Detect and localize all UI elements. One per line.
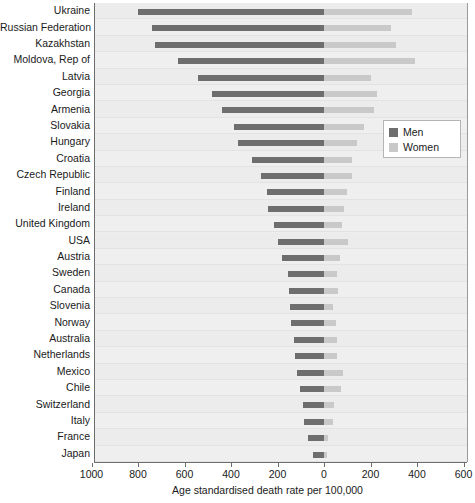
bar-women — [324, 337, 337, 343]
bar-women — [324, 452, 327, 458]
row-background — [95, 364, 467, 380]
x-axis-tick — [92, 463, 93, 467]
bar-women — [324, 189, 347, 195]
bar-women — [324, 370, 343, 376]
bar-men — [212, 91, 324, 97]
plot-area — [95, 3, 468, 462]
x-axis-tick-label: 400 — [211, 468, 251, 480]
category-label: Austria — [0, 251, 90, 262]
bar-men — [288, 271, 324, 277]
bar-row — [95, 265, 467, 281]
bar-men — [303, 402, 324, 408]
bar-men — [290, 304, 324, 310]
bar-women — [324, 402, 334, 408]
legend-swatch-women-icon — [389, 143, 398, 152]
bar-women — [324, 255, 340, 261]
row-background — [95, 380, 467, 396]
bar-women — [324, 271, 337, 277]
bar-women — [324, 419, 333, 425]
y-axis-line — [94, 3, 95, 462]
bar-women — [324, 288, 338, 294]
bar-men — [152, 25, 324, 31]
legend-item-women: Women — [389, 140, 455, 155]
bar-men — [294, 337, 324, 343]
bar-row — [95, 347, 467, 363]
row-background — [95, 331, 467, 347]
category-label: USA — [0, 235, 90, 246]
bar-men — [238, 140, 324, 146]
category-label: Armenia — [0, 104, 90, 115]
row-background — [95, 282, 467, 298]
x-axis-tick-label: 1000 — [72, 468, 112, 480]
bar-men — [278, 239, 325, 245]
bar-men — [282, 255, 324, 261]
category-label: Slovakia — [0, 120, 90, 131]
bar-men — [234, 124, 324, 130]
x-axis-tick — [138, 463, 139, 467]
bar-row — [95, 52, 467, 68]
bar-women — [324, 222, 342, 228]
row-background — [95, 249, 467, 265]
row-background — [95, 314, 467, 330]
category-label: Croatia — [0, 153, 90, 164]
bar-women — [324, 353, 337, 359]
x-axis-tick — [324, 463, 325, 467]
bar-men — [261, 173, 324, 179]
bar-row — [95, 167, 467, 183]
x-axis-tick-label: 600 — [444, 468, 475, 480]
legend-item-men: Men — [389, 125, 455, 140]
category-label: Australia — [0, 333, 90, 344]
bar-men — [268, 206, 324, 212]
legend-label-women: Women — [403, 142, 439, 153]
category-label: United Kingdom — [0, 218, 90, 229]
bar-row — [95, 282, 467, 298]
bar-row — [95, 446, 467, 462]
bar-men — [308, 435, 324, 441]
bar-men — [300, 386, 324, 392]
bar-men — [295, 353, 324, 359]
bar-row — [95, 413, 467, 429]
category-label: Kazakhstan — [0, 38, 90, 49]
bar-row — [95, 380, 467, 396]
bar-women — [324, 9, 412, 15]
bar-row — [95, 216, 467, 232]
x-axis-tick-label: 800 — [118, 468, 158, 480]
x-axis-tick-label: 200 — [351, 468, 391, 480]
row-background — [95, 413, 467, 429]
bar-row — [95, 298, 467, 314]
category-label: France — [0, 431, 90, 442]
category-label: Finland — [0, 186, 90, 197]
bar-women — [324, 107, 374, 113]
row-background — [95, 298, 467, 314]
x-axis-tick — [464, 463, 465, 467]
category-label: Japan — [0, 448, 90, 459]
bar-row — [95, 249, 467, 265]
category-label: Netherlands — [0, 349, 90, 360]
bar-row — [95, 85, 467, 101]
x-axis-tick-label: 400 — [397, 468, 437, 480]
bar-men — [267, 189, 324, 195]
category-label: Norway — [0, 317, 90, 328]
bar-row — [95, 233, 467, 249]
category-label: Georgia — [0, 87, 90, 98]
category-label: Mexico — [0, 366, 90, 377]
x-axis-tick — [371, 463, 372, 467]
legend-label-men: Men — [403, 127, 423, 138]
bar-men — [291, 320, 324, 326]
bar-row — [95, 3, 467, 19]
bar-row — [95, 69, 467, 85]
bar-row — [95, 331, 467, 347]
bar-women — [324, 157, 352, 163]
category-label: Hungary — [0, 136, 90, 147]
category-label: Moldova, Rep of — [0, 54, 90, 65]
bar-women — [324, 239, 348, 245]
bar-women — [324, 173, 352, 179]
bar-row — [95, 183, 467, 199]
row-background — [95, 265, 467, 281]
bar-men — [297, 370, 324, 376]
category-label: Ukraine — [0, 5, 90, 16]
x-axis-tick — [417, 463, 418, 467]
bar-row — [95, 429, 467, 445]
category-axis-labels: UkraineRussian FederationKazakhstanMoldo… — [0, 3, 90, 462]
bar-women — [324, 91, 377, 97]
